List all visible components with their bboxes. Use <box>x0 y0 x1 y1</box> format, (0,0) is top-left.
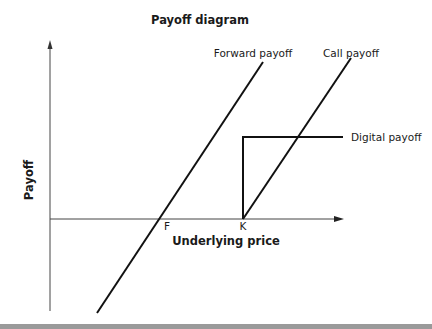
x-axis <box>50 216 344 222</box>
forward-payoff-line <box>97 62 263 313</box>
bottom-border-bar <box>0 324 432 329</box>
y-axis <box>48 40 53 311</box>
forward-price-tick-label: F <box>164 220 170 232</box>
x-axis-label: Underlying price <box>172 234 280 248</box>
diagram-title: Payoff diagram <box>151 13 249 27</box>
y-axis-arrow-icon <box>48 40 53 49</box>
digital-payoff-line <box>243 137 343 219</box>
y-axis-label: Payoff <box>22 159 36 200</box>
digital-payoff-label: Digital payoff <box>351 131 422 143</box>
strike-tick-label: K <box>240 220 248 232</box>
call-payoff-label: Call payoff <box>323 47 380 59</box>
call-payoff-line <box>243 58 351 219</box>
payoff-diagram: Payoff diagram Payoff Underlying price F… <box>0 0 432 329</box>
x-axis-arrow-icon <box>334 216 344 222</box>
forward-payoff-label: Forward payoff <box>214 47 293 59</box>
